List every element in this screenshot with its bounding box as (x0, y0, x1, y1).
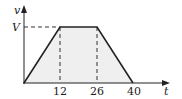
tick-label-26: 26 (90, 85, 104, 98)
y-axis-arrow-icon (21, 5, 27, 13)
tick-label-12: 12 (53, 85, 67, 98)
v-level-label: V (12, 21, 21, 34)
x-axis-label: t (164, 85, 169, 98)
area-under-curve (24, 27, 133, 83)
tick-label-40: 40 (127, 85, 141, 98)
velocity-time-graph: v V 12 26 40 t (0, 0, 182, 99)
y-axis-label: v (14, 4, 21, 17)
